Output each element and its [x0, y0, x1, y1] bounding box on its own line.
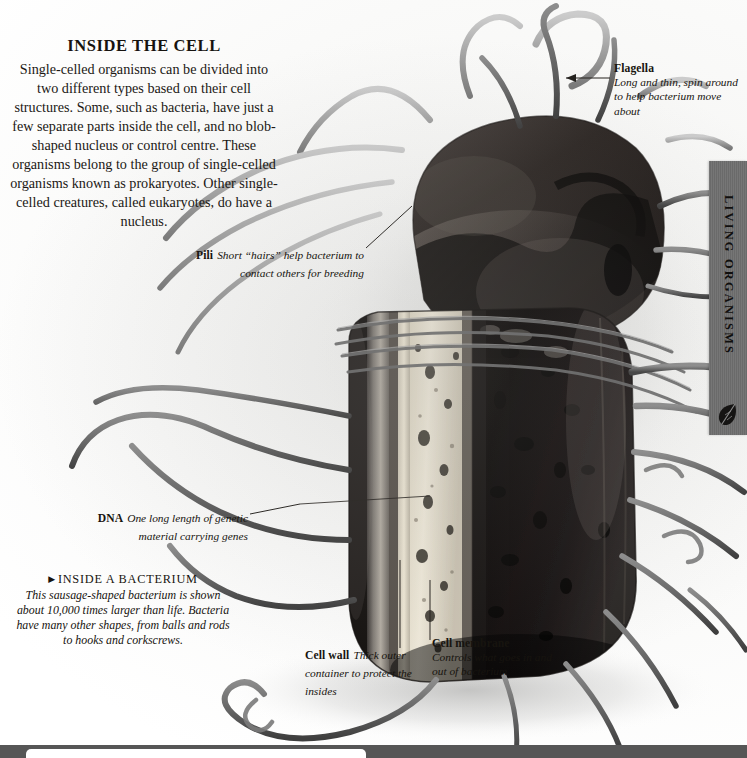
label-cell-wall-head: Cell wall [305, 649, 349, 662]
intro-text-block: INSIDE THE CELL Single-celled organisms … [8, 36, 280, 231]
label-cell-membrane-head: Cell membrane [432, 637, 552, 650]
section-tab-living-organisms[interactable]: LIVING ORGANISMS [709, 161, 747, 435]
caption-title-row: ▶INSIDE A BACTERIUM [14, 572, 232, 587]
label-cell-membrane: Cell membrane Controls what goes in and … [432, 637, 552, 679]
label-dna-head: DNA [98, 512, 123, 525]
label-flagella-desc: Long and thin, spin around to help bacte… [614, 75, 744, 118]
label-cell-wall-line: Cell wall Thick outer container to prote… [305, 645, 427, 699]
caption-title: INSIDE A BACTERIUM [58, 572, 198, 586]
caption-arrow-icon: ▶ [48, 574, 56, 584]
label-pili-desc: Short “hairs” help bacterium to contact … [217, 249, 364, 279]
label-pili: Pili Short “hairs” help bacterium to con… [188, 245, 364, 281]
label-flagella: Flagella Long and thin, spin around to h… [614, 62, 744, 118]
label-pili-head: Pili [196, 249, 213, 262]
section-tab-label: LIVING ORGANISMS [709, 169, 747, 381]
caption-body: This sausage-shaped bacterium is shown a… [14, 588, 232, 648]
page-root: INSIDE THE CELL Single-celled organisms … [0, 0, 747, 758]
label-cell-wall: Cell wall Thick outer container to prote… [305, 645, 427, 699]
label-pili-line: Pili Short “hairs” help bacterium to con… [188, 245, 364, 281]
label-dna-desc: One long length of genetic material carr… [127, 512, 248, 542]
figure-caption: ▶INSIDE A BACTERIUM This sausage-shaped … [14, 572, 232, 648]
label-dna-line: DNA One long length of genetic material … [62, 508, 248, 544]
label-dna: DNA One long length of genetic material … [62, 508, 248, 544]
bottom-bar-inset [26, 749, 366, 758]
leaf-icon [709, 402, 747, 428]
label-cell-membrane-desc: Controls what goes in and out of bacteri… [432, 650, 552, 679]
label-flagella-head: Flagella [614, 62, 744, 75]
page-title: INSIDE THE CELL [8, 36, 280, 56]
intro-body: Single-celled organisms can be divided i… [8, 60, 280, 231]
bottom-bar [0, 745, 747, 758]
